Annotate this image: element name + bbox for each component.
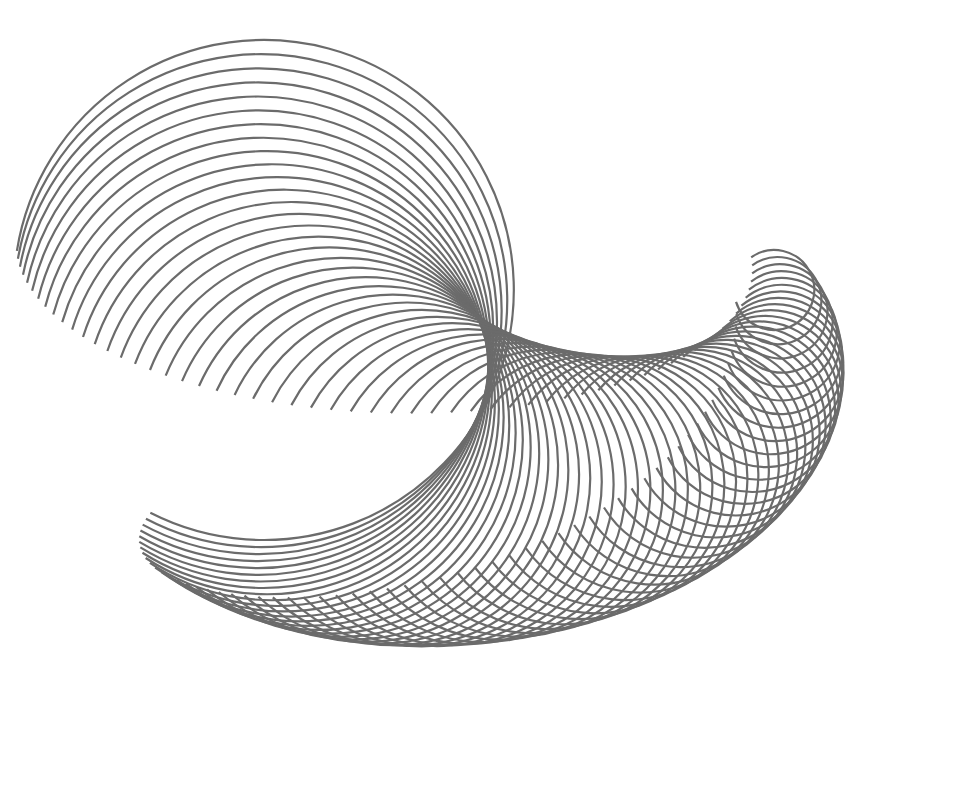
loop-curves <box>17 40 844 646</box>
spiral-line-art <box>0 0 973 797</box>
